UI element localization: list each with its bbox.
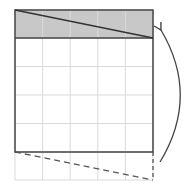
fold-diagram [0, 0, 189, 196]
curved-arrow-icon [160, 30, 180, 162]
dashed-diagonal-line [15, 152, 153, 180]
